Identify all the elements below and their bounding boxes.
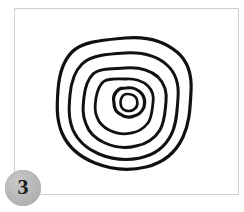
figure-number-label: 3 bbox=[18, 176, 29, 198]
figure-panel-root: 3 bbox=[0, 0, 244, 212]
figure-panel bbox=[14, 8, 239, 195]
figure-number-badge: 3 bbox=[5, 170, 41, 206]
figure-number-badge-circle: 3 bbox=[5, 170, 41, 206]
